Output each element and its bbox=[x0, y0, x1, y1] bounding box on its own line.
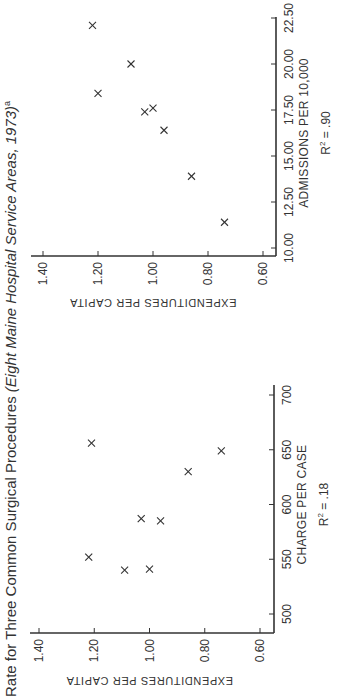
x-axis-title: ADMISSIONS PER 10,000 bbox=[297, 58, 311, 208]
y-tick-label: 0.60 bbox=[256, 262, 270, 286]
x-tick-label: 500 bbox=[280, 604, 294, 624]
x-axis-title: CHARGE PER CASE bbox=[295, 445, 309, 565]
scatter-admissions-per-10000: 0.600.801.001.201.4010.0012.5015.0017.50… bbox=[31, 3, 333, 309]
data-point-x-marker bbox=[89, 22, 96, 29]
r-squared-annotation: R2 = .90 bbox=[318, 111, 333, 155]
data-point-x-marker bbox=[221, 219, 228, 226]
y-tick-label: 1.20 bbox=[87, 639, 101, 663]
data-point-x-marker bbox=[128, 61, 135, 68]
x-tick-label: 20.00 bbox=[282, 49, 296, 79]
y-tick-label: 1.00 bbox=[146, 262, 160, 286]
figure-page: Rate for Three Common Surgical Procedure… bbox=[0, 0, 349, 697]
y-axis-title: EXPENDITURES PER CAPITA bbox=[69, 297, 236, 309]
data-point-x-marker bbox=[146, 566, 153, 573]
data-point-x-marker bbox=[141, 108, 148, 115]
x-tick-label: 700 bbox=[280, 385, 294, 405]
x-tick-label: 15.00 bbox=[282, 141, 296, 171]
data-point-x-marker bbox=[161, 127, 168, 134]
data-point-x-marker bbox=[138, 515, 145, 522]
y-axis-title: EXPENDITURES PER CAPITA bbox=[66, 675, 233, 687]
data-point-x-marker bbox=[188, 173, 195, 180]
y-tick-label: 0.60 bbox=[253, 639, 267, 663]
r-squared-annotation: R2 = .18 bbox=[316, 482, 331, 526]
x-tick-label: 550 bbox=[280, 549, 294, 569]
x-tick-label: 17.50 bbox=[282, 95, 296, 125]
data-point-x-marker bbox=[185, 468, 192, 475]
data-point-x-marker bbox=[88, 440, 95, 447]
x-tick-label: 10.00 bbox=[282, 233, 296, 263]
y-tick-label: 1.20 bbox=[91, 262, 105, 286]
scatter-charge-per-case: 0.600.801.001.201.40500550600650700EXPEN… bbox=[30, 385, 331, 687]
scatter-plots: 0.600.801.001.201.40500550600650700EXPEN… bbox=[0, 0, 349, 697]
y-tick-label: 0.80 bbox=[198, 639, 212, 663]
y-tick-label: 0.80 bbox=[201, 262, 215, 286]
y-tick-label: 1.40 bbox=[32, 639, 46, 663]
data-point-x-marker bbox=[85, 554, 92, 561]
data-point-x-marker bbox=[95, 90, 102, 97]
x-tick-label: 12.50 bbox=[282, 187, 296, 217]
data-point-x-marker bbox=[150, 105, 157, 112]
y-tick-label: 1.00 bbox=[143, 639, 157, 663]
data-point-x-marker bbox=[157, 517, 164, 524]
x-tick-label: 650 bbox=[280, 439, 294, 459]
data-point-x-marker bbox=[121, 567, 128, 574]
x-tick-label: 22.50 bbox=[282, 3, 296, 33]
y-tick-label: 1.40 bbox=[36, 262, 50, 286]
data-point-x-marker bbox=[218, 447, 225, 454]
x-tick-label: 600 bbox=[280, 494, 294, 514]
